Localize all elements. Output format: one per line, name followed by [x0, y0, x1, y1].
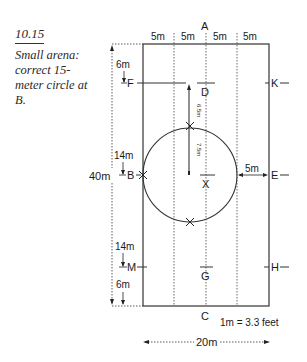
distance-F-to-B: 14m [114, 150, 133, 161]
letter-X: X [202, 178, 210, 190]
width-label: 20m [196, 336, 217, 348]
distance-M-to-bottom: 6m [116, 279, 130, 290]
distance-D-to-circle: 6.5m [196, 104, 202, 117]
distance-circle-to-center: 7.5m [196, 143, 202, 156]
letter-F: F [127, 77, 134, 89]
letter-M: M [127, 261, 136, 273]
column-width-label-1: 5m [151, 31, 165, 42]
letter-G: G [201, 270, 210, 282]
letter-D: D [201, 86, 209, 98]
column-dividers [174, 33, 237, 306]
letter-K: K [271, 77, 279, 89]
distance-circle-to-E: 5m [245, 163, 259, 174]
column-width-label-4: 5m [243, 31, 257, 42]
letter-B: B [127, 169, 134, 181]
letter-E: E [271, 169, 278, 181]
arena-diagram: 5m 5m 5m 5m A 40m 6m F D K 6.5m 7.5m [0, 0, 307, 362]
length-label: 40m [89, 170, 110, 182]
distance-B-to-M: 14m [115, 241, 134, 252]
letter-C: C [201, 310, 209, 322]
distance-top-to-F: 6m [116, 59, 130, 70]
column-width-label-3: 5m [213, 31, 227, 42]
circle-points [139, 122, 194, 226]
letter-A: A [201, 20, 209, 32]
scale-note: 1m = 3.3 feet [220, 317, 279, 328]
column-width-label-2: 5m [181, 31, 195, 42]
letter-H: H [271, 261, 279, 273]
